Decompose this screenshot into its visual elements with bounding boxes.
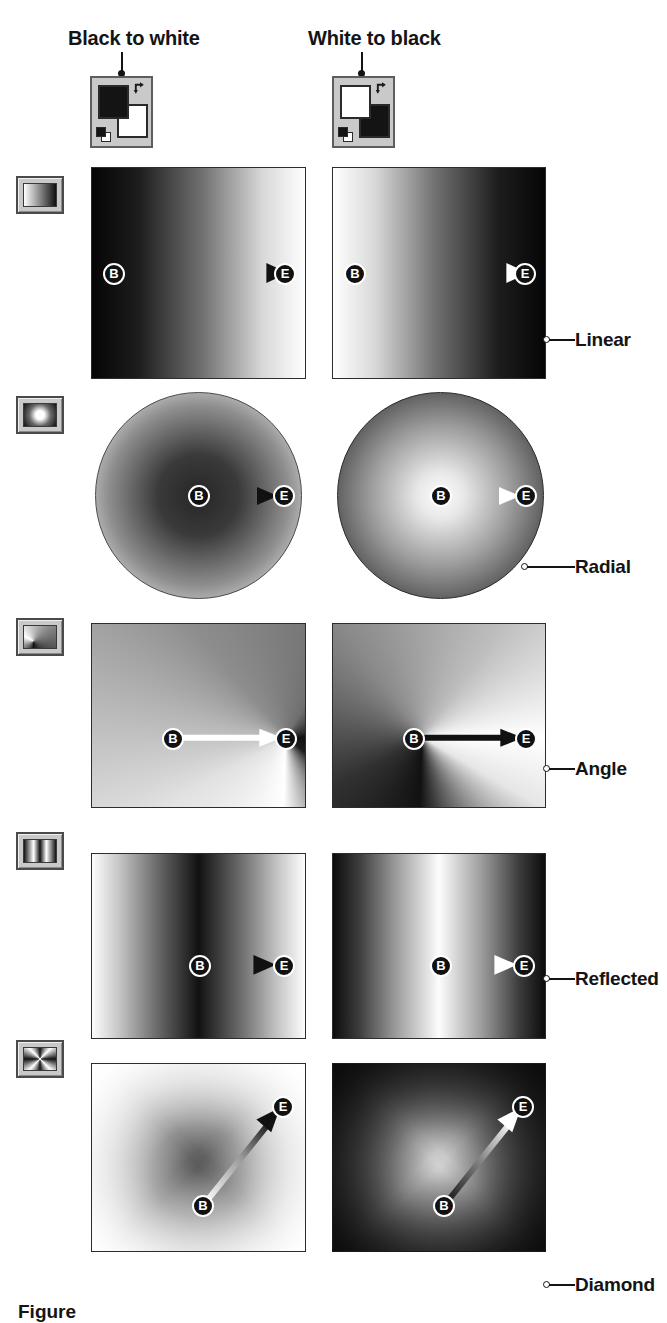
end-marker[interactable]: E — [274, 263, 296, 285]
linear-gradient-icon — [23, 183, 57, 207]
gradient-sample-radial-black-to-white: B E — [95, 392, 302, 599]
row-label-linear: Linear — [575, 329, 631, 351]
tool-button-linear[interactable] — [16, 176, 64, 214]
end-marker[interactable]: E — [515, 728, 537, 750]
gradient-sample-radial-white-to-black: B E — [337, 392, 544, 599]
gradient-sample-angle-black-to-white: B E — [91, 623, 306, 808]
end-marker[interactable]: E — [515, 485, 537, 507]
end-marker[interactable]: E — [514, 263, 536, 285]
gradient-vector — [333, 624, 545, 807]
tool-button-radial[interactable] — [16, 396, 64, 434]
column-label-white-to-black: White to black — [308, 27, 441, 50]
gradient-sample-angle-white-to-black: B E — [332, 623, 546, 808]
begin-marker[interactable]: B — [162, 728, 184, 750]
begin-marker[interactable]: B — [103, 263, 125, 285]
row-label-reflected: Reflected — [575, 968, 659, 990]
angle-gradient-icon — [23, 625, 57, 649]
end-marker[interactable]: E — [273, 485, 295, 507]
gradient-vector — [92, 854, 305, 1038]
gradient-vector — [333, 854, 545, 1038]
diamond-gradient-icon — [23, 1047, 57, 1071]
begin-marker[interactable]: B — [403, 728, 425, 750]
foreground-color-swatch[interactable] — [98, 85, 129, 119]
callout-line-diamond — [549, 1284, 575, 1286]
column-label-black-to-white: Black to white — [68, 27, 200, 50]
gradient-vector — [92, 624, 305, 807]
gradient-sample-reflected-black-to-white: B E — [91, 853, 306, 1039]
callout-line-linear — [549, 339, 575, 341]
reflected-gradient-icon — [23, 839, 57, 863]
end-marker[interactable]: E — [273, 955, 295, 977]
begin-marker[interactable]: B — [430, 955, 452, 977]
color-swatch-black-to-white[interactable] — [90, 76, 153, 148]
swap-colors-icon[interactable] — [133, 81, 148, 96]
begin-marker[interactable]: B — [188, 485, 210, 507]
callout-line-reflected — [549, 978, 575, 980]
default-colors-icon[interactable] — [338, 127, 353, 142]
tool-button-reflected[interactable] — [16, 832, 64, 870]
gradient-sample-linear-black-to-white: B E — [91, 167, 306, 379]
default-foreground — [338, 127, 348, 137]
radial-gradient-icon — [23, 403, 57, 427]
gradient-sample-diamond-white-to-black: B E — [332, 1063, 546, 1252]
row-label-angle: Angle — [575, 758, 627, 780]
default-foreground — [96, 127, 106, 137]
begin-marker[interactable]: B — [189, 955, 211, 977]
gradient-vector — [92, 1064, 305, 1251]
default-colors-icon[interactable] — [96, 127, 111, 142]
tool-button-diamond[interactable] — [16, 1040, 64, 1078]
foreground-color-swatch[interactable] — [340, 85, 371, 119]
end-marker[interactable]: E — [272, 1096, 294, 1118]
tool-button-angle[interactable] — [16, 618, 64, 656]
gradient-sample-diamond-black-to-white: B E — [91, 1063, 306, 1252]
end-marker[interactable]: E — [512, 1096, 534, 1118]
end-marker[interactable]: E — [275, 728, 297, 750]
begin-marker[interactable]: B — [430, 485, 452, 507]
swap-colors-icon[interactable] — [375, 81, 390, 96]
row-label-radial: Radial — [575, 556, 631, 578]
row-label-diamond: Diamond — [575, 1274, 655, 1296]
gradient-vector — [333, 1064, 545, 1251]
begin-marker[interactable]: B — [192, 1195, 214, 1217]
begin-marker[interactable]: B — [433, 1195, 455, 1217]
color-swatch-white-to-black[interactable] — [332, 76, 395, 148]
callout-line-radial — [527, 566, 575, 568]
end-marker[interactable]: E — [513, 955, 535, 977]
gradient-sample-reflected-white-to-black: B E — [332, 853, 546, 1039]
callout-line-angle — [549, 768, 575, 770]
gradient-sample-linear-white-to-black: B E — [332, 167, 546, 379]
begin-marker[interactable]: B — [344, 263, 366, 285]
figure-caption: Figure — [18, 1301, 76, 1323]
